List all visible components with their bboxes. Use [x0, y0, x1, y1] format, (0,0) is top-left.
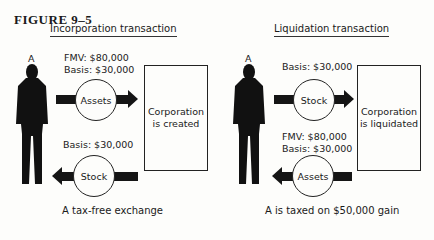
basis-value: Basis: $30,000 — [282, 143, 352, 155]
assets-circle: Assets — [75, 79, 117, 121]
stock-circle: Stock — [73, 155, 115, 197]
panel-title: Liquidation transaction — [274, 23, 389, 37]
person-silhouette-icon — [229, 64, 269, 184]
basis-value: Basis: $30,000 — [282, 61, 352, 73]
corporation-box: Corporation is created — [144, 65, 208, 171]
basis-value: Basis: $30,000 — [64, 64, 134, 76]
stock-circle: Stock — [293, 79, 335, 121]
arrowhead-right-icon — [128, 90, 138, 108]
caption: A is taxed on $50,000 gain — [265, 205, 399, 216]
corporation-box: Corporation is liquidated — [357, 65, 421, 171]
fmv-value: FMV: $80,000 — [64, 52, 134, 64]
caption: A tax-free exchange — [62, 205, 163, 216]
assets-circle: Assets — [292, 155, 334, 197]
panel-title: Incorporation transaction — [50, 23, 177, 37]
arrowhead-left-icon — [272, 167, 282, 185]
basis-value: Basis: $30,000 — [63, 139, 133, 151]
fmv-value: FMV: $80,000 — [282, 131, 352, 143]
arrowhead-right-icon — [344, 90, 354, 108]
person-silhouette-icon — [12, 64, 52, 184]
arrowhead-left-icon — [52, 167, 62, 185]
